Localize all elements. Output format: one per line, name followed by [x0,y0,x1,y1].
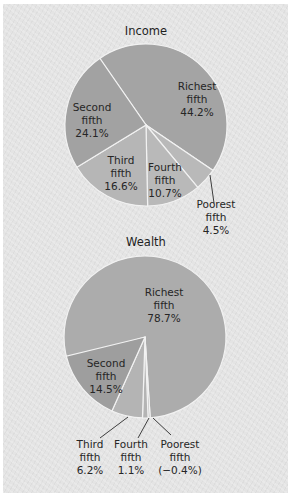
svg-text:Second: Second [87,357,126,369]
wealth-pie [64,256,226,418]
income-label-poorest: Poorest fifth 4.5% [197,198,236,236]
svg-text:1.1%: 1.1% [118,464,145,476]
svg-text:(−0.4%): (−0.4%) [158,464,202,476]
svg-text:Richest: Richest [178,80,217,92]
svg-text:fifth: fifth [82,114,103,126]
wealth-fourth-leader [138,418,149,438]
svg-text:14.5%: 14.5% [89,383,122,395]
svg-text:Third: Third [76,438,104,450]
wealth-title: Wealth [126,235,166,249]
svg-text:fifth: fifth [187,93,208,105]
pie-charts: Income Richest fifth 44.2% Second fifth … [0,0,290,499]
wealth-label-poorest: Poorest fifth (−0.4%) [158,438,202,476]
wealth-label-third: Third fifth 6.2% [76,438,104,476]
svg-text:24.1%: 24.1% [75,127,108,139]
svg-text:6.2%: 6.2% [77,464,104,476]
svg-text:16.6%: 16.6% [104,180,137,192]
svg-text:fifth: fifth [206,211,227,223]
svg-text:Richest: Richest [145,286,184,298]
svg-text:10.7%: 10.7% [148,187,181,199]
svg-text:4.5%: 4.5% [203,224,230,236]
svg-text:fifth: fifth [170,451,191,463]
svg-text:fifth: fifth [121,451,142,463]
svg-text:Poorest: Poorest [197,198,236,210]
svg-text:fifth: fifth [96,370,117,382]
income-title: Income [125,24,167,38]
svg-text:Fourth: Fourth [148,161,182,173]
svg-text:44.2%: 44.2% [180,106,213,118]
svg-text:fifth: fifth [80,451,101,463]
svg-text:78.7%: 78.7% [147,312,180,324]
svg-text:fifth: fifth [111,167,132,179]
svg-text:Third: Third [107,154,135,166]
wealth-poorest-leader [153,418,171,435]
svg-text:Second: Second [73,101,112,113]
wealth-label-fourth: Fourth fifth 1.1% [114,438,148,476]
svg-text:Poorest: Poorest [161,438,200,450]
svg-text:Fourth: Fourth [114,438,148,450]
wealth-third-leader [100,417,128,438]
svg-text:fifth: fifth [154,299,175,311]
svg-text:fifth: fifth [155,174,176,186]
